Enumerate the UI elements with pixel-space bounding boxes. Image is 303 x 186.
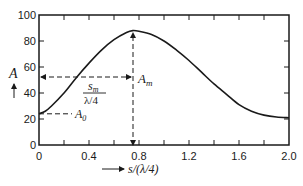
x-axis-label: s/(λ/4): [128, 162, 159, 176]
x-tick-label: 2.0: [281, 150, 296, 162]
y-axis-tick-labels: 020406080100: [18, 9, 36, 151]
y-tick-label: 100: [18, 9, 36, 21]
sm-numerator: sm: [88, 79, 99, 94]
x-tick-label: 1.2: [181, 150, 196, 162]
y-tick-label: 20: [24, 113, 36, 125]
y-axis-label: A: [8, 66, 18, 81]
x-axis-ticks: [64, 15, 264, 145]
x-tick-label: 0: [36, 150, 42, 162]
x-tick-label: 0.8: [131, 150, 146, 162]
y-tick-label: 80: [24, 35, 36, 47]
y-tick-label: 60: [24, 61, 36, 73]
am-label: Am: [137, 71, 153, 88]
y-tick-label: 0: [30, 139, 36, 151]
amplitude-curve: [39, 31, 289, 118]
x-tick-label: 0.4: [81, 150, 96, 162]
x-tick-label: 1.6: [231, 150, 246, 162]
amplitude-chart: 00.40.81.21.62.0 020406080100 Am A0 sm λ…: [0, 0, 303, 186]
a0-label: A0: [74, 107, 86, 123]
y-tick-label: 40: [24, 87, 36, 99]
plot-frame: [39, 15, 289, 145]
x-axis-tick-labels: 00.40.81.21.62.0: [36, 150, 297, 162]
sm-denominator: λ/4: [84, 94, 98, 106]
